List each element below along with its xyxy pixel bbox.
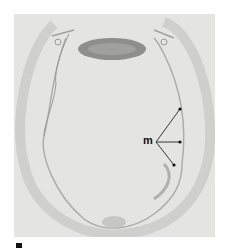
pointer-dot: [172, 163, 175, 166]
micrograph-frame: m: [14, 14, 215, 237]
annotation-label-m: m: [143, 135, 153, 146]
panel-label-partial: [16, 243, 22, 248]
pointer-dot: [178, 140, 181, 143]
pointer-dot: [178, 107, 181, 110]
label-pointers: [14, 14, 215, 237]
